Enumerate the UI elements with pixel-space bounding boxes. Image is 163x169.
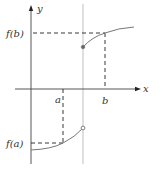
open-endpoint-dot	[81, 126, 85, 130]
y-axis-arrow-icon	[29, 5, 33, 11]
x-axis-label: x	[143, 83, 149, 94]
upper-branch-curve	[83, 27, 134, 47]
lower-branch-curve	[31, 128, 83, 150]
f-b-label: f(b)	[5, 28, 24, 39]
b-tick-label: b	[102, 95, 108, 106]
graph-canvas: y x f(b) f(a) a b	[0, 0, 163, 169]
y-axis-label: y	[36, 3, 43, 14]
closed-endpoint-dot	[81, 45, 85, 49]
function-graph-figure: y x f(b) f(a) a b	[0, 0, 163, 169]
f-a-label: f(a)	[5, 138, 24, 149]
x-axis-arrow-icon	[135, 87, 141, 91]
a-tick-label: a	[55, 94, 61, 105]
